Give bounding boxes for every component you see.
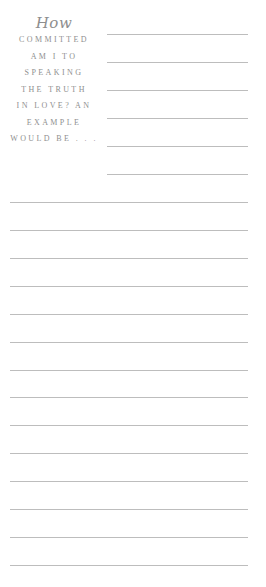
writing-line[interactable]: [107, 62, 248, 63]
writing-line[interactable]: [107, 146, 248, 147]
writing-line[interactable]: [10, 286, 248, 287]
prompt-line-7: WOULD BE . . .: [4, 131, 104, 148]
prompt-line-6: EXAMPLE: [4, 115, 104, 132]
prompt-line-1: COMMITTED: [4, 32, 104, 49]
writing-line[interactable]: [10, 453, 248, 454]
writing-line[interactable]: [10, 202, 248, 203]
writing-line[interactable]: [10, 314, 248, 315]
writing-line[interactable]: [10, 370, 248, 371]
prompt-line-2: AM I TO: [4, 49, 104, 66]
prompt-line-5: IN LOVE? AN: [4, 98, 104, 115]
writing-line[interactable]: [10, 425, 248, 426]
writing-line[interactable]: [10, 230, 248, 231]
writing-line[interactable]: [10, 565, 248, 566]
journal-prompt: How COMMITTED AM I TO SPEAKING THE TRUTH…: [4, 14, 104, 148]
prompt-line-4: THE TRUTH: [4, 82, 104, 99]
writing-line[interactable]: [10, 537, 248, 538]
writing-line[interactable]: [107, 34, 248, 35]
writing-line[interactable]: [10, 481, 248, 482]
writing-line[interactable]: [10, 258, 248, 259]
writing-line[interactable]: [107, 174, 248, 175]
writing-line[interactable]: [10, 509, 248, 510]
writing-line[interactable]: [107, 118, 248, 119]
writing-line[interactable]: [10, 397, 248, 398]
writing-line[interactable]: [10, 342, 248, 343]
writing-line[interactable]: [107, 90, 248, 91]
prompt-script-word: How: [4, 14, 104, 32]
prompt-line-3: SPEAKING: [4, 65, 104, 82]
